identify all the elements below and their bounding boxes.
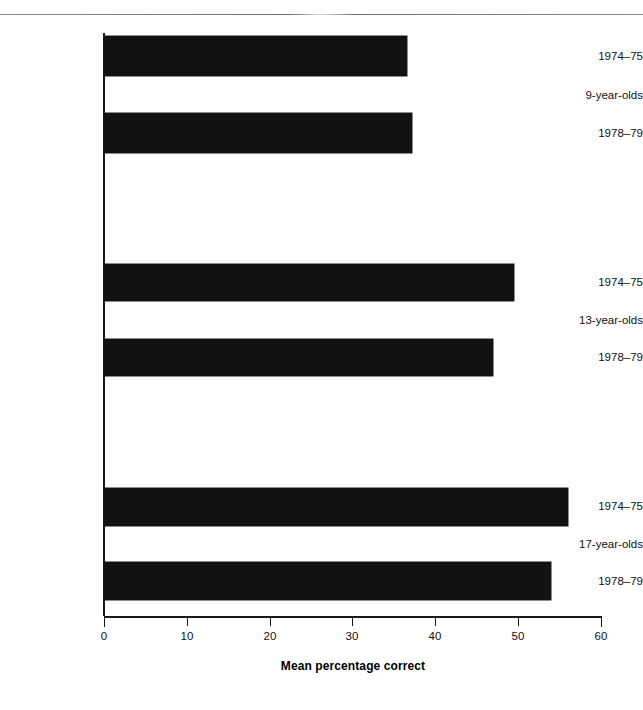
row-label-1978-79-17yo: 1978–79 <box>547 574 643 588</box>
x-axis-title: Mean percentage correct <box>104 659 602 673</box>
tick-mark-10 <box>187 618 188 626</box>
tick-label-40: 40 <box>415 629 455 643</box>
row-label-1974-75-13yo: 1974–75 <box>547 275 643 289</box>
tick-label-10: 10 <box>167 629 207 643</box>
tick-mark-30 <box>352 618 353 626</box>
group-label-13-year-olds: 13-year-olds <box>547 313 643 327</box>
row-label-1978-79-9yo: 1978–79 <box>547 126 643 140</box>
bar-1974-75-9yo <box>104 36 407 76</box>
group-label-17-year-olds: 17-year-olds <box>547 537 643 551</box>
row-label-1978-79-13yo: 1978–79 <box>547 350 643 364</box>
bar-1974-75-13yo <box>104 264 514 301</box>
value-axis-line <box>104 616 602 618</box>
tick-mark-0 <box>104 618 105 627</box>
tick-mark-40 <box>435 618 436 626</box>
group-label-9-year-olds: 9-year-olds <box>547 88 643 102</box>
bar-1978-79-13yo <box>104 339 493 376</box>
tick-label-50: 50 <box>498 629 538 643</box>
tick-label-0: 0 <box>84 629 124 643</box>
tick-label-20: 20 <box>250 629 290 643</box>
bar-1978-79-17yo <box>104 562 551 600</box>
tick-mark-20 <box>270 618 271 626</box>
tick-mark-50 <box>518 618 519 626</box>
bar-chart-plot-area: 0 10 20 30 40 50 60 1974–75 9-year-olds … <box>0 0 643 710</box>
figure: 0 10 20 30 40 50 60 1974–75 9-year-olds … <box>0 0 643 710</box>
row-label-1974-75-9yo: 1974–75 <box>547 49 643 63</box>
bar-1974-75-17yo <box>104 488 568 526</box>
tick-label-60: 60 <box>581 629 621 643</box>
tick-mark-60 <box>601 618 602 627</box>
bar-1978-79-9yo <box>104 113 412 153</box>
tick-label-30: 30 <box>332 629 372 643</box>
